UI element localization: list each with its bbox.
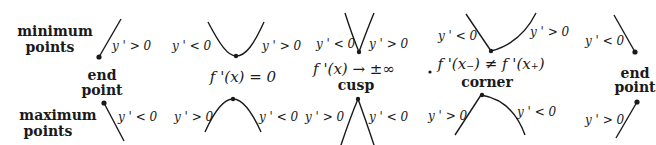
- slope-right-label: y ' < 0: [368, 110, 409, 124]
- endpoint-dot: [96, 54, 101, 59]
- smooth-minimum: y ' < 0 y ' > 0: [171, 22, 302, 58]
- corner-dot: [480, 93, 484, 97]
- slope-left-label: y ' > 0: [304, 110, 345, 124]
- left-endpoint-label-line1: end: [88, 67, 117, 83]
- corner-minimum: y ' < 0 y ' > 0: [437, 13, 570, 53]
- slope-left-label: y ' < 0: [315, 37, 356, 51]
- slope-right-label: y ' > 0: [529, 25, 570, 39]
- smooth-maximum: y ' > 0 y ' < 0: [173, 97, 299, 132]
- extrema-diagram: minimum points maximum points y ' > 0 en…: [0, 0, 656, 145]
- bullet-dot: [428, 70, 431, 73]
- parabola-up: [208, 22, 264, 56]
- max-dot: [231, 97, 235, 101]
- slope-left-label: y ' < 0: [171, 39, 212, 53]
- right-endpoint-maximum: y ' > 0: [584, 99, 640, 138]
- corner-condition: f '(x₋) ≠ f '(x₊): [436, 55, 544, 73]
- slope-left-label: y ' < 0: [437, 29, 478, 43]
- right-endpoint-label-line2: point: [614, 79, 656, 95]
- row-label-minimum: minimum: [17, 23, 93, 39]
- slope-label: y ' < 0: [117, 110, 158, 124]
- parabola-down: [205, 99, 261, 132]
- endpoint-dot: [634, 99, 639, 104]
- endpoint-dot: [101, 100, 106, 105]
- cusp-dot: [357, 50, 361, 54]
- row-label-maximum-points: points: [24, 123, 73, 139]
- slope-left-label: y ' > 0: [173, 110, 214, 124]
- cusp-label: cusp: [338, 77, 375, 93]
- cusp-condition: f '(x) → ±∞: [312, 60, 395, 78]
- left-endpoint-label-line2: point: [81, 82, 123, 98]
- smooth-condition: f '(x) = 0: [209, 68, 277, 86]
- cusp-maximum: y ' > 0 y ' < 0: [304, 97, 409, 145]
- row-label-minimum-points: points: [26, 39, 75, 55]
- slope-right-label: y ' < 0: [516, 105, 557, 119]
- min-dot: [234, 54, 238, 58]
- cusp-minimum: y ' < 0 y ' > 0: [315, 13, 409, 54]
- right-endpoint-minimum: y ' < 0: [584, 15, 638, 55]
- slope-label: y ' < 0: [584, 34, 625, 48]
- slope-left-label: y ' > 0: [427, 109, 468, 123]
- slope-right-label: y ' < 0: [258, 110, 299, 124]
- corner-dot: [489, 49, 493, 53]
- left-endpoint-maximum: y ' < 0: [101, 100, 157, 141]
- slope-right-label: y ' > 0: [368, 37, 409, 51]
- left-endpoint-minimum: y ' > 0: [96, 19, 151, 60]
- slope-right-label: y ' > 0: [261, 39, 302, 53]
- row-label-maximum: maximum: [19, 107, 97, 123]
- corner-label: corner: [461, 74, 513, 90]
- slope-label: y ' > 0: [584, 113, 625, 127]
- cusp-dot: [356, 97, 360, 101]
- endpoint-dot: [632, 49, 637, 54]
- corner-maximum: y ' > 0 y ' < 0: [427, 93, 557, 135]
- slope-label: y ' > 0: [111, 39, 152, 53]
